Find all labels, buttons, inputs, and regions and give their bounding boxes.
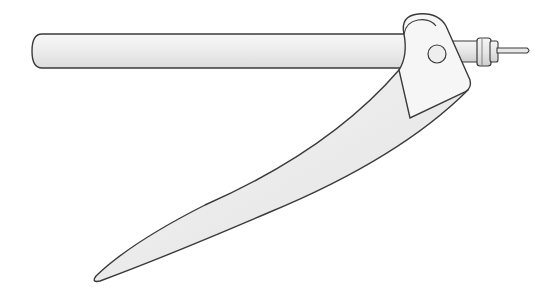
nib-collar	[477, 38, 498, 66]
compass-illustration	[0, 0, 559, 297]
needle	[497, 48, 529, 53]
rod	[32, 34, 410, 68]
pivot-pin	[428, 45, 446, 63]
hinge-head	[399, 14, 470, 118]
illustration-canvas	[0, 0, 559, 297]
